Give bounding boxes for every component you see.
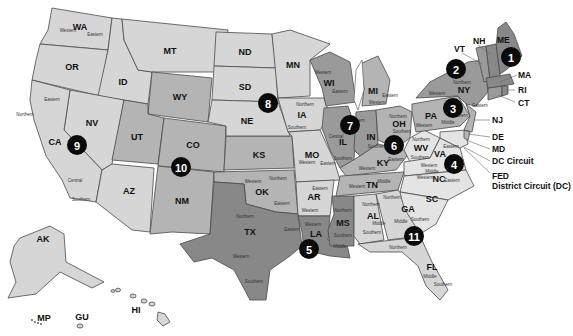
- label-sd: SD: [239, 82, 252, 92]
- district-wi-western: Western: [315, 70, 332, 75]
- circuit-badge-7[interactable]: 7: [340, 115, 360, 135]
- territory-gu[interactable]: [77, 324, 83, 328]
- state-az[interactable]: [96, 164, 154, 232]
- svg-text:1: 1: [508, 52, 514, 64]
- us-circuit-map: WA OR ID MT WY NV CA UT CO AZ NM ND SD N…: [0, 0, 573, 336]
- label-ia: IA: [298, 110, 308, 120]
- svg-text:11: 11: [408, 231, 420, 243]
- svg-text:7: 7: [347, 120, 353, 132]
- district-mo-eastern: Eastern: [320, 161, 336, 166]
- callout-me: ME: [497, 35, 510, 45]
- state-mi[interactable]: [360, 56, 390, 106]
- callout-de: DE: [492, 132, 504, 142]
- district-wv-northern: Northern: [412, 137, 430, 142]
- district-ok-northern: Northern: [269, 176, 287, 181]
- district-wa-eastern: Eastern: [87, 32, 103, 37]
- callout-ct: CT: [518, 98, 530, 108]
- callout-vt: VT: [454, 44, 466, 54]
- label-mo: MO: [305, 150, 320, 160]
- district-ca-central: Central: [68, 178, 83, 183]
- district-ms-southern: Southern: [334, 233, 353, 238]
- district-ar-western: Western: [302, 208, 319, 213]
- label-pa: PA: [425, 111, 437, 121]
- callout-nh: NH: [473, 36, 485, 46]
- label-fl: FL: [427, 262, 438, 272]
- svg-text:8: 8: [265, 98, 271, 110]
- label-mp: MP: [37, 313, 51, 323]
- district-nc-eastern: Eastern: [444, 178, 460, 183]
- district-fl-northern: Northern: [389, 245, 407, 250]
- circuit-badge-6[interactable]: 6: [384, 135, 404, 155]
- callout-ri: RI: [518, 85, 527, 95]
- label-ne: NE: [241, 116, 254, 126]
- district-ms-northern: Northern: [334, 208, 352, 213]
- state-ri[interactable]: [502, 86, 508, 96]
- state-de[interactable]: [464, 130, 470, 140]
- circuit-badge-10[interactable]: 10: [171, 157, 191, 177]
- label-mi: MI: [368, 86, 378, 96]
- district-ny-western: Western: [429, 91, 446, 96]
- label-gu: GU: [75, 312, 89, 322]
- district-pa-western: Western: [416, 123, 433, 128]
- circuit-badge-4[interactable]: 4: [444, 154, 464, 174]
- label-wi: WI: [324, 78, 335, 88]
- district-ok-western: Western: [245, 179, 262, 184]
- district-la-middle: Middle: [333, 244, 347, 249]
- district-ia-southern: Southern: [288, 125, 307, 130]
- district-wa-western: Western: [60, 28, 77, 33]
- district-ky-eastern: Eastern: [388, 157, 404, 162]
- district-al-northern: Northern: [362, 202, 380, 207]
- district-wv-southern: Southern: [411, 155, 430, 160]
- callout-fed: FED: [492, 171, 509, 181]
- circuit-badge-2[interactable]: 2: [446, 59, 466, 79]
- label-ok: OK: [255, 187, 269, 197]
- label-nm: NM: [175, 196, 189, 206]
- district-ga-northern: Northern: [383, 195, 401, 200]
- svg-text:2: 2: [453, 64, 459, 76]
- district-fl-middle: Middle: [423, 274, 437, 279]
- label-az: AZ: [123, 186, 135, 196]
- label-co: CO: [186, 140, 200, 150]
- district-ga-southern: Southern: [411, 217, 430, 222]
- district-oh-northern: Northern: [389, 114, 407, 119]
- state-hi[interactable]: [111, 288, 170, 326]
- district-ia-northern: Northern: [296, 102, 314, 107]
- district-mo-western: Western: [299, 160, 316, 165]
- district-tx-southern: Southern: [245, 279, 264, 284]
- label-oh: OH: [392, 119, 406, 129]
- district-ca-northern: Northern: [16, 112, 34, 117]
- district-tx-northern: Northern: [236, 214, 254, 219]
- svg-text:10: 10: [175, 162, 187, 174]
- district-al-middle: Middle: [372, 221, 386, 226]
- callout-ma: MA: [518, 70, 531, 80]
- callout-dc-circuit: DC Circuit: [492, 156, 534, 166]
- district-ny-eastern: Eastern: [472, 103, 488, 108]
- circuit-badge-8[interactable]: 8: [258, 93, 278, 113]
- label-wy: WY: [173, 92, 188, 102]
- district-ky-western: Western: [359, 166, 376, 171]
- label-nd: ND: [239, 47, 252, 57]
- label-mt: MT: [164, 46, 177, 56]
- callout-nj: NJ: [492, 115, 503, 125]
- label-ut: UT: [131, 132, 143, 142]
- circuit-badge-3[interactable]: 3: [443, 98, 463, 118]
- circuit-badge-9[interactable]: 9: [67, 135, 87, 155]
- circuit-badge-11[interactable]: 11: [404, 226, 424, 246]
- callout-fed-district: District Circuit (DC): [492, 181, 571, 191]
- district-va-western: Western: [421, 163, 438, 168]
- label-ga: GA: [401, 204, 415, 214]
- label-wv: WV: [414, 143, 429, 153]
- circuit-badge-1[interactable]: 1: [501, 47, 521, 67]
- district-tn-western: Western: [349, 184, 366, 189]
- label-tn: TN: [366, 180, 378, 190]
- district-in-southern: Southern: [368, 144, 387, 149]
- district-ar-eastern: Eastern: [312, 186, 328, 191]
- svg-text:5: 5: [306, 244, 312, 256]
- circuit-badge-5[interactable]: 5: [299, 239, 319, 259]
- label-ms: MS: [336, 218, 350, 228]
- district-la-western: Western: [305, 222, 322, 227]
- district-il-central: Central: [329, 134, 344, 139]
- label-id: ID: [119, 77, 129, 87]
- district-tx-western: Western: [233, 254, 250, 259]
- state-ak[interactable]: [8, 226, 104, 298]
